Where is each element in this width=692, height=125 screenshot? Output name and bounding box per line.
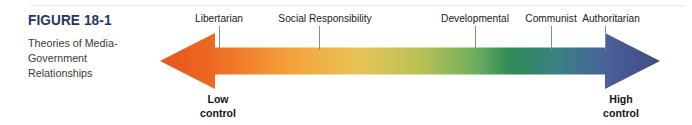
tick-developmental bbox=[475, 26, 476, 50]
scale-label-social-responsibility: Social Responsibility bbox=[278, 12, 371, 24]
scale-label-authoritarian: Authoritarian bbox=[582, 12, 640, 24]
scale-label-developmental: Developmental bbox=[441, 12, 509, 24]
scale-label-communist: Communist bbox=[525, 12, 576, 24]
low-control-line-1: Low bbox=[200, 93, 236, 107]
tick-authoritarian bbox=[605, 26, 606, 50]
scale-label-libertarian: Libertarian bbox=[195, 12, 243, 24]
endpoint-label-high-control: High control bbox=[603, 93, 639, 120]
tick-libertarian bbox=[219, 26, 220, 50]
high-control-line-1: High bbox=[603, 93, 639, 107]
arrow-shape bbox=[160, 33, 660, 89]
continuum-axis: Libertarian Social Responsibility Develo… bbox=[0, 0, 692, 125]
gradient-double-arrow bbox=[155, 30, 665, 92]
figure-container: FIGURE 18-1 Theories of Media- Governmen… bbox=[0, 0, 692, 125]
endpoint-label-low-control: Low control bbox=[200, 93, 236, 120]
tick-communist bbox=[551, 26, 552, 50]
high-control-line-2: control bbox=[603, 107, 639, 121]
low-control-line-2: control bbox=[200, 107, 236, 121]
tick-social-responsibility bbox=[319, 26, 320, 50]
